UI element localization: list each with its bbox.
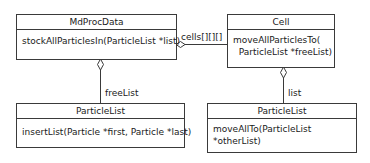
class-name: Cell <box>228 15 334 30</box>
class-methods: insertList(Particle *first, Particle *la… <box>17 119 184 138</box>
class-particlelist-right: ParticleList moveAllTo(ParticleList *oth… <box>207 103 357 153</box>
freelist-aggregation-connector <box>98 59 104 103</box>
list-aggregation-connector <box>281 67 287 103</box>
cells-role-label: cells[][][] <box>181 32 222 42</box>
class-cell: Cell moveAllParticlesTo( ParticleList *f… <box>227 14 335 68</box>
method: insertList(Particle *first, Particle *la… <box>22 126 179 138</box>
method-continuation: *otherList) <box>213 135 351 147</box>
aggregation-diamond-icon <box>281 67 287 78</box>
method-continuation: ParticleList *freeList) <box>233 46 329 58</box>
class-mdprocdata: MdProcData stockAllParticlesIn(ParticleL… <box>16 14 177 60</box>
list-role-label: list <box>288 88 301 98</box>
class-name: ParticleList <box>17 104 184 119</box>
class-name: MdProcData <box>17 15 176 30</box>
freelist-role-label: freeList <box>105 88 138 98</box>
class-particlelist-left: ParticleList insertList(Particle *first,… <box>16 103 185 148</box>
method: stockAllParticlesIn(ParticleList *list) <box>22 35 171 47</box>
method: moveAllParticlesTo( <box>233 34 329 46</box>
class-methods: moveAllParticlesTo( ParticleList *freeLi… <box>228 30 334 58</box>
method: moveAllTo(ParticleList <box>213 123 351 135</box>
class-methods: stockAllParticlesIn(ParticleList *list) <box>17 30 176 47</box>
cells-aggregation-connector <box>176 42 227 48</box>
class-methods: moveAllTo(ParticleList *otherList) <box>208 119 356 147</box>
class-name: ParticleList <box>208 104 356 119</box>
aggregation-diamond-icon <box>98 59 104 70</box>
